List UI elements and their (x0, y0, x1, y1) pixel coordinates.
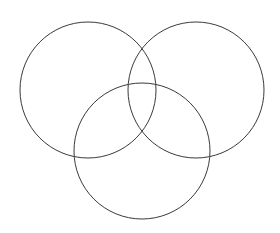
venn-diagram-canvas (0, 0, 280, 233)
diagram-background (0, 0, 280, 233)
venn-diagram-svg (0, 0, 280, 233)
